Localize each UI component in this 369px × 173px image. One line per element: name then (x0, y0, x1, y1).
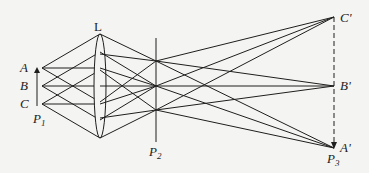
plane-p3-label: P3 (326, 151, 340, 168)
point-c-prime-label: C' (340, 10, 352, 25)
optics-diagram: L A B C P1 P2 P3 C' B' A' (0, 0, 369, 173)
image-rays (156, 17, 334, 148)
point-b-label: B (20, 78, 28, 93)
point-b-prime-label: B' (340, 78, 351, 93)
plane-p2-label: P2 (148, 144, 162, 161)
point-c-label: C (20, 96, 29, 111)
lens-label: L (94, 19, 102, 34)
ray-diagram-svg: L A B C P1 P2 P3 C' B' A' (0, 0, 369, 173)
incident-rays (42, 34, 100, 138)
point-a-label: A (19, 60, 28, 75)
plane-p1-label: P1 (32, 111, 45, 128)
refracted-rays (100, 34, 156, 138)
point-a-prime-label: A' (339, 140, 351, 155)
